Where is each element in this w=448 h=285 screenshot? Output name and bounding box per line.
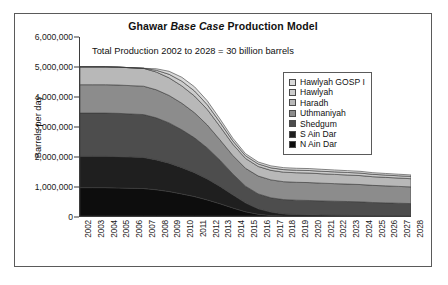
- legend-item: S Ain Dar: [289, 129, 365, 139]
- legend-item-label: Hawlyah: [300, 87, 333, 97]
- y-tick-label: 3,000,000: [35, 122, 73, 132]
- legend-swatch-icon: [289, 89, 296, 96]
- x-tick-label: 2025: [377, 220, 387, 238]
- x-axis: 2002200320042005200620072008200920102011…: [79, 217, 411, 265]
- x-tick-label: 2023: [351, 220, 361, 238]
- x-tick-label: 2002: [83, 220, 93, 238]
- y-axis: 01,000,0002,000,0003,000,0004,000,0005,0…: [15, 37, 79, 217]
- legend-swatch-icon: [289, 120, 296, 127]
- chart-legend: Hawlyah GOSP IHawlyahHaradhUthmaniyahShe…: [283, 72, 372, 155]
- legend-item-label: Uthmaniyah: [300, 108, 346, 118]
- legend-swatch-icon: [289, 79, 296, 86]
- x-tick-label: 2010: [185, 220, 195, 238]
- x-tick-label: 2024: [364, 220, 374, 238]
- x-tick-label: 2019: [300, 220, 310, 238]
- x-tick-label: 2017: [275, 220, 285, 238]
- x-tick-label: 2003: [96, 220, 106, 238]
- x-tick-label: 2014: [236, 220, 246, 238]
- legend-swatch-icon: [289, 110, 296, 117]
- legend-item: N Ain Dar: [289, 139, 365, 149]
- legend-item: Hawlyah GOSP I: [289, 77, 365, 87]
- chart-figure: Ghawar Base Case Production Model Barrel…: [14, 13, 432, 267]
- x-tick-label: 2022: [338, 220, 348, 238]
- y-tick-label: 4,000,000: [35, 92, 73, 102]
- total-production-annotation: Total Production 2002 to 2028 = 30 billi…: [92, 46, 294, 56]
- legend-item-label: N Ain Dar: [300, 139, 337, 149]
- x-tick-label: 2015: [249, 220, 259, 238]
- x-tick-label: 2018: [287, 220, 297, 238]
- x-tick-label: 2009: [172, 220, 182, 238]
- legend-swatch-icon: [289, 131, 296, 138]
- legend-item: Haradh: [289, 98, 365, 108]
- x-tick-label: 2020: [313, 220, 323, 238]
- x-tick-label: 2004: [109, 220, 119, 238]
- chart-title-prefix: Ghawar: [128, 20, 170, 32]
- x-tick-label: 2007: [147, 220, 157, 238]
- legend-item: Shedgum: [289, 119, 365, 129]
- legend-item: Uthmaniyah: [289, 108, 365, 118]
- x-tick-label: 2021: [326, 220, 336, 238]
- chart-title-italic: Base Case: [170, 20, 224, 32]
- x-tick-label: 2026: [389, 220, 399, 238]
- legend-item-label: Shedgum: [300, 119, 337, 129]
- y-tick-label: 1,000,000: [35, 182, 73, 192]
- x-tick-label: 2008: [160, 220, 170, 238]
- x-tick-label: 2012: [211, 220, 221, 238]
- legend-swatch-icon: [289, 141, 296, 148]
- y-tick-label: 0: [68, 212, 73, 222]
- y-tick-label: 6,000,000: [35, 32, 73, 42]
- chart-title: Ghawar Base Case Production Model: [15, 20, 431, 32]
- legend-item-label: S Ain Dar: [300, 129, 336, 139]
- legend-item-label: Haradh: [300, 98, 328, 108]
- x-tick-label: 2016: [262, 220, 272, 238]
- x-tick-label: 2011: [198, 220, 208, 237]
- x-tick-label: 2027: [402, 220, 412, 238]
- y-tick-label: 2,000,000: [35, 152, 73, 162]
- x-tick-label: 2006: [134, 220, 144, 238]
- legend-swatch-icon: [289, 99, 296, 106]
- y-tick-label: 5,000,000: [35, 62, 73, 72]
- x-tick-label: 2028: [415, 220, 425, 238]
- x-tick-label: 2005: [121, 220, 131, 238]
- legend-item-label: Hawlyah GOSP I: [300, 77, 365, 87]
- x-tick-label: 2013: [223, 220, 233, 238]
- legend-item: Hawlyah: [289, 87, 365, 97]
- chart-title-suffix: Production Model: [224, 20, 317, 32]
